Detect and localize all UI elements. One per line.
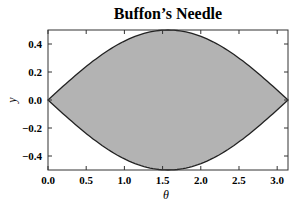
svg-text:0.4: 0.4 bbox=[28, 38, 42, 50]
svg-text:−0.2: −0.2 bbox=[22, 122, 43, 134]
svg-text:0.5: 0.5 bbox=[79, 174, 93, 186]
svg-text:1.5: 1.5 bbox=[156, 174, 170, 186]
y-axis-label: y bbox=[5, 97, 19, 104]
svg-text:1.0: 1.0 bbox=[118, 174, 132, 186]
x-axis-label: θ bbox=[163, 188, 169, 202]
buffon-needle-chart: Buffon’s Needle 0.00.51.01.52.02.53.0 −0… bbox=[0, 0, 299, 212]
svg-text:0.0: 0.0 bbox=[28, 94, 42, 106]
svg-text:3.0: 3.0 bbox=[270, 174, 284, 186]
svg-text:0.0: 0.0 bbox=[41, 174, 55, 186]
svg-text:0.2: 0.2 bbox=[28, 66, 42, 78]
svg-text:−0.4: −0.4 bbox=[22, 150, 43, 162]
svg-text:2.5: 2.5 bbox=[232, 174, 246, 186]
chart-title: Buffon’s Needle bbox=[114, 5, 222, 22]
svg-text:2.0: 2.0 bbox=[194, 174, 208, 186]
shaded-region bbox=[48, 30, 288, 170]
